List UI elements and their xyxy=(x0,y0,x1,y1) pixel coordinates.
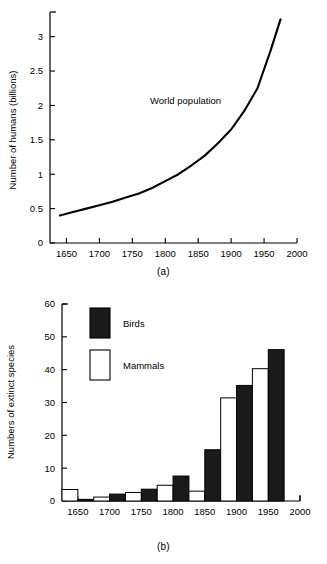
y-tick-label-b: 20 xyxy=(44,430,55,441)
x-tick-label-b: 1900 xyxy=(226,506,247,517)
population-curve xyxy=(60,19,281,215)
legend-label-birds: Birds xyxy=(123,318,145,329)
bar-mammals-1725 xyxy=(125,492,141,501)
x-tick-label-b: 1650 xyxy=(67,506,88,517)
y-tick-label-a: 2.5 xyxy=(30,65,43,76)
legend-label-mammals: Mammals xyxy=(123,360,164,371)
y-tick-label-a: 1.5 xyxy=(30,134,43,145)
panel-a-caption: (a) xyxy=(0,266,327,277)
legend-swatch-mammals xyxy=(90,350,110,380)
y-tick-label-b: 0 xyxy=(50,495,55,506)
panel-b-caption: (b) xyxy=(0,541,327,552)
bar-mammals-1875 xyxy=(221,398,237,501)
bar-birds-1800 xyxy=(173,476,189,501)
y-tick-label-a: 0.5 xyxy=(30,203,43,214)
x-tick-label-b: 1750 xyxy=(131,506,152,517)
bar-birds-1950 xyxy=(268,350,284,501)
bar-mammals-1775 xyxy=(157,485,173,501)
y-tick-label-b: 60 xyxy=(44,298,55,309)
y-axis-title-b: Numbers of extinct species xyxy=(5,345,16,459)
x-tick-label-b: 1700 xyxy=(99,506,120,517)
world-population-annotation: World population xyxy=(150,95,221,106)
x-tick-label-a: 1850 xyxy=(188,248,209,259)
bar-birds-1650 xyxy=(78,499,94,501)
bar-mammals-1825 xyxy=(189,491,205,501)
bar-mammals-1625 xyxy=(62,490,78,501)
y-tick-label-a: 3 xyxy=(38,31,43,42)
x-tick-label-b: 1800 xyxy=(162,506,183,517)
legend-swatch-birds xyxy=(90,308,110,338)
extinct-species-chart: 0102030405060165017001750180018501900195… xyxy=(0,290,327,564)
x-tick-label-a: 1650 xyxy=(56,248,77,259)
bar-birds-1900 xyxy=(237,385,253,501)
two-panel-figure: 00.511.522.53165017001750180018501900195… xyxy=(0,0,327,564)
legend-group: BirdsMammals xyxy=(90,308,164,380)
y-tick-label-a: 0 xyxy=(38,237,43,248)
x-tick-label-b: 2000 xyxy=(289,506,310,517)
y-axis-title-a: Number of humans (billions) xyxy=(7,71,18,190)
x-tick-label-b: 1850 xyxy=(194,506,215,517)
y-tick-label-b: 50 xyxy=(44,331,55,342)
bar-birds-1750 xyxy=(141,489,157,501)
y-tick-label-b: 30 xyxy=(44,397,55,408)
bar-mammals-1925 xyxy=(252,369,268,501)
x-tick-label-a: 1800 xyxy=(155,248,176,259)
bar-birds-1700 xyxy=(110,494,126,501)
bar-mammals-1675 xyxy=(94,497,110,501)
panel-b-extinct-species: 0102030405060165017001750180018501900195… xyxy=(0,290,327,564)
world-population-chart: 00.511.522.53165017001750180018501900195… xyxy=(0,0,327,290)
x-tick-label-a: 1950 xyxy=(253,248,274,259)
x-tick-label-b: 1950 xyxy=(258,506,279,517)
x-tick-label-a: 1900 xyxy=(221,248,242,259)
y-tick-label-b: 40 xyxy=(44,364,55,375)
x-tick-label-a: 1700 xyxy=(89,248,110,259)
panel-a-world-population: 00.511.522.53165017001750180018501900195… xyxy=(0,0,327,290)
x-tick-label-a: 1750 xyxy=(122,248,143,259)
y-tick-label-a: 2 xyxy=(38,100,43,111)
bar-birds-1850 xyxy=(205,450,221,501)
y-tick-label-a: 1 xyxy=(38,169,43,180)
x-tick-label-a: 2000 xyxy=(286,248,307,259)
y-tick-label-b: 10 xyxy=(44,463,55,474)
